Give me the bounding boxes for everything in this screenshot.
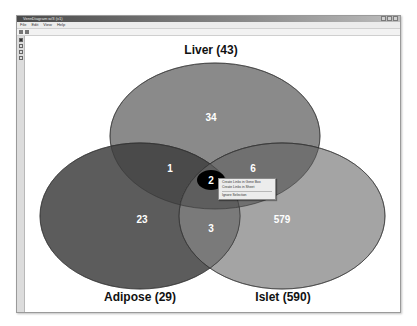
menu-item-ignore-selection[interactable]: Ignore Selection — [222, 193, 272, 198]
menu-item-create-links-sheet[interactable]: Create Links in Sheet — [222, 185, 272, 190]
venn-diagram: Liver (43) Adipose (29) Islet (590) 34 2… — [0, 0, 417, 326]
count-liver-adipose[interactable]: 1 — [167, 163, 173, 174]
liver-label: Liver (43) — [184, 43, 237, 57]
islet-label: Islet (590) — [255, 290, 310, 304]
count-adipose-islet[interactable]: 3 — [208, 223, 214, 234]
count-adipose-only[interactable]: 23 — [136, 214, 148, 225]
menu-separator — [222, 191, 272, 192]
count-liver-only[interactable]: 34 — [205, 112, 217, 123]
context-menu: Create Links in Gene Box Create Links in… — [218, 178, 276, 200]
count-all-three[interactable]: 2 — [208, 175, 214, 186]
count-islet-only[interactable]: 579 — [274, 214, 291, 225]
count-liver-islet[interactable]: 6 — [250, 163, 256, 174]
adipose-label: Adipose (29) — [104, 290, 176, 304]
